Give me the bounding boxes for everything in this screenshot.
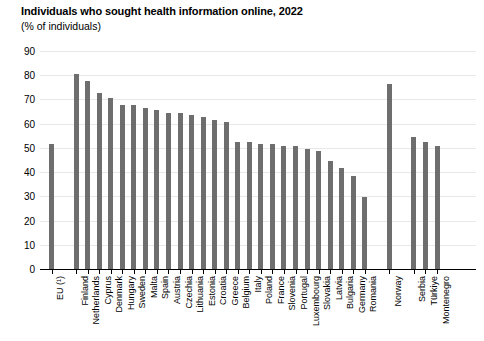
x-axis-label: Spain [160,253,170,276]
x-axis-label: Hungary [126,242,136,276]
y-tick-label-60: 60 [24,118,35,129]
x-axis-label-text: Romania [368,276,378,312]
y-tick-label-50: 50 [24,142,35,153]
plot-area: 0102030405060708090 [40,52,476,270]
x-axis-label-text: Croatia [218,276,228,305]
bar [387,84,392,271]
x-axis-label: Luxembourg [311,226,321,276]
x-axis-label-text: Denmark [114,276,124,313]
x-axis-label: Croatia [218,247,228,276]
x-tick [52,270,53,274]
y-tick-label-70: 70 [24,94,35,105]
x-axis-label-text: Montenegro [440,276,450,324]
x-axis-label-text: Norway [392,276,402,307]
x-axis-label-text: Cyprus [102,276,112,305]
x-axis-label-text: Greece [229,276,239,306]
x-axis-label-text: Slovakia [322,276,332,310]
x-axis-label: Romania [368,240,378,276]
x-axis-label: France [276,248,286,276]
bar [74,74,79,270]
x-axis-label: Netherlands [91,227,101,276]
x-axis-label: Slovakia [322,242,332,276]
x-axis-label: Czechia [184,243,194,276]
x-axis-label: Germany [357,239,367,276]
x-axis-label: EU (¹) [55,252,65,276]
bar [258,144,263,270]
y-tick-label-10: 10 [24,239,35,250]
x-axis-label-text: Poland [264,276,274,304]
x-axis-label: Denmark [114,239,124,276]
x-axis-label-text: Luxembourg [310,276,320,326]
bar [49,144,54,270]
x-axis-label-text: Latvia [333,276,343,300]
chart-subtitle: (% of individuals) [21,20,101,32]
x-axis-label: Cyprus [103,247,113,276]
y-tick-label-90: 90 [24,46,35,57]
x-axis-label: Belgium [241,243,251,276]
x-tick [76,270,77,274]
x-axis-label-text: Bulgaria [345,276,355,309]
y-tick-label-40: 40 [24,167,35,178]
x-axis-label: Serbia [417,250,427,276]
x-axis-label-text: Malta [148,276,158,298]
y-tick-label-80: 80 [24,70,35,81]
bar [85,81,90,270]
x-axis-label-text: Estonia [206,276,216,306]
y-tick-label-0: 0 [29,264,35,275]
chart-title: Individuals who sought health informatio… [21,5,303,17]
x-axis-label: Montenegro [441,228,451,276]
chart-page: Individuals who sought health informatio… [0,0,484,341]
x-axis-label-text: Austria [171,276,181,304]
x-axis-label-text: Hungary [125,276,135,310]
x-axis-label: Portugal [299,242,309,276]
y-tick-label-30: 30 [24,191,35,202]
x-axis-label-text: Lithuania [195,276,205,313]
x-axis-label-text: EU (¹) [55,276,65,300]
x-axis-label: Türkiye [429,246,439,276]
x-axis-labels: EU (¹)FinlandNetherlandsCyprusDenmarkHun… [40,276,476,341]
bar [178,113,183,270]
x-axis-label: Norway [393,245,403,276]
bar [411,137,416,270]
bar-series [40,52,476,270]
x-axis-label-text: Serbia [417,276,427,302]
x-axis-label-text: Spain [160,276,170,299]
x-axis-label-text: Sweden [137,276,147,309]
x-axis-label: Bulgaria [345,243,355,276]
x-axis-label-text: Italy [252,276,262,293]
x-axis-label: Finland [80,246,90,276]
bar [154,110,159,270]
x-axis-label-text: Germany [356,276,366,313]
x-axis-label: Lithuania [195,239,205,276]
x-axis-label-text: Slovenia [287,276,297,311]
x-tick [389,270,390,274]
x-axis-label-text: Belgium [241,276,251,309]
x-axis-label-text: Finland [79,276,89,306]
x-axis-label-text: France [275,276,285,304]
x-axis-label: Estonia [207,246,217,276]
x-axis-label: Greece [230,246,240,276]
x-axis-label: Malta [149,254,159,276]
x-axis-label: Poland [264,248,274,276]
x-axis-label: Austria [172,248,182,276]
bar [166,113,171,270]
x-axis-label-text: Portugal [299,276,309,310]
x-axis-label: Italy [253,259,263,276]
bar [108,98,113,270]
x-axis-label-text: Czechia [183,276,193,309]
x-axis-label-text: Netherlands [91,276,101,325]
y-tick-label-20: 20 [24,215,35,226]
x-tick [414,270,415,274]
x-axis-label: Slovenia [287,241,297,276]
x-axis-label: Sweden [137,243,147,276]
x-axis-label-text: Türkiye [428,276,438,306]
x-axis-label: Latvia [334,252,344,276]
